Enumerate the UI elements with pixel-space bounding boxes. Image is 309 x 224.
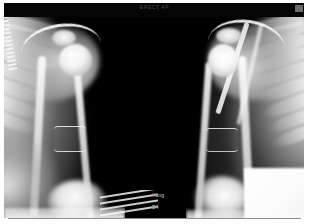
- acromion: [216, 28, 242, 44]
- view-code-overlay: D4: [152, 204, 159, 210]
- right-shoulder-radiograph[interactable]: [186, 16, 305, 220]
- film-area[interactable]: ERECT AP: [4, 3, 305, 220]
- film-bottom-rule: [8, 218, 301, 219]
- collimator-slat-artifact: [100, 190, 158, 216]
- humeral-head: [208, 44, 238, 77]
- film-margin-top: [0, 0, 309, 3]
- mid-shaft-cuff-band: [54, 126, 86, 152]
- patient-name-overlay: Yang: [152, 192, 164, 198]
- radiograph-viewer: ERECT AP: [0, 0, 309, 224]
- mid-shaft-cuff-band: [206, 128, 238, 152]
- film-margin-right: [304, 0, 309, 224]
- side-marker-icon: [295, 5, 303, 12]
- header-banner-text: ERECT AP: [4, 4, 305, 10]
- humeral-head: [59, 44, 92, 76]
- film-margin-left: [0, 0, 4, 224]
